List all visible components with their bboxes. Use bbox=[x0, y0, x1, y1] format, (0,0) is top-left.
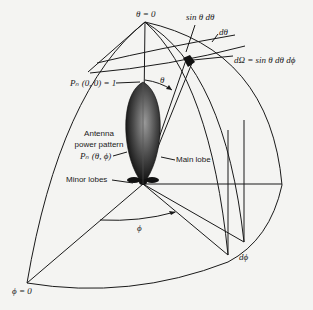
leader-main bbox=[161, 157, 175, 160]
edge-left bbox=[88, 22, 145, 72]
ray-phi-2 bbox=[143, 184, 244, 242]
label-phi-zero: ϕ = 0 bbox=[12, 287, 32, 296]
domega-patch bbox=[183, 55, 195, 67]
antenna-pattern-diagram: θ = 0 sin θ dθ dθ dΩ = sin θ dθ dϕ Pₙ (0… bbox=[0, 0, 313, 310]
leader-pn bbox=[113, 152, 127, 156]
label-main-lobe: Main lobe bbox=[176, 156, 211, 164]
label-theta-zero: θ = 0 bbox=[136, 10, 156, 19]
outer-arc-bottom bbox=[27, 262, 228, 288]
phi-arc bbox=[100, 212, 175, 220]
ray-phi-1 bbox=[143, 184, 228, 255]
phi-arrowhead bbox=[169, 211, 176, 215]
label-dtheta: dθ bbox=[219, 28, 228, 37]
axis-x bbox=[27, 184, 143, 283]
label-pn-theta-phi: Pₙ (θ, ϕ) bbox=[80, 152, 111, 161]
label-pn-max: Pₙ (0, 0) = 1 bbox=[70, 79, 116, 88]
label-minor-lobes: Minor lobes bbox=[66, 176, 107, 184]
label-power-pattern: power pattern bbox=[64, 141, 134, 149]
label-theta: θ bbox=[160, 76, 164, 85]
label-dphi: dϕ bbox=[239, 253, 248, 262]
label-solid-angle: dΩ = sin θ dθ dϕ bbox=[234, 56, 295, 65]
diagram-canvas bbox=[0, 0, 313, 310]
label-phi: ϕ bbox=[137, 224, 142, 233]
label-sin-theta-dtheta: sin θ dθ bbox=[186, 13, 214, 22]
minor-lobe-left bbox=[127, 177, 141, 183]
leader-pn-max bbox=[116, 82, 140, 83]
label-antenna: Antenna bbox=[74, 130, 124, 138]
minor-lobe-right bbox=[145, 177, 159, 183]
